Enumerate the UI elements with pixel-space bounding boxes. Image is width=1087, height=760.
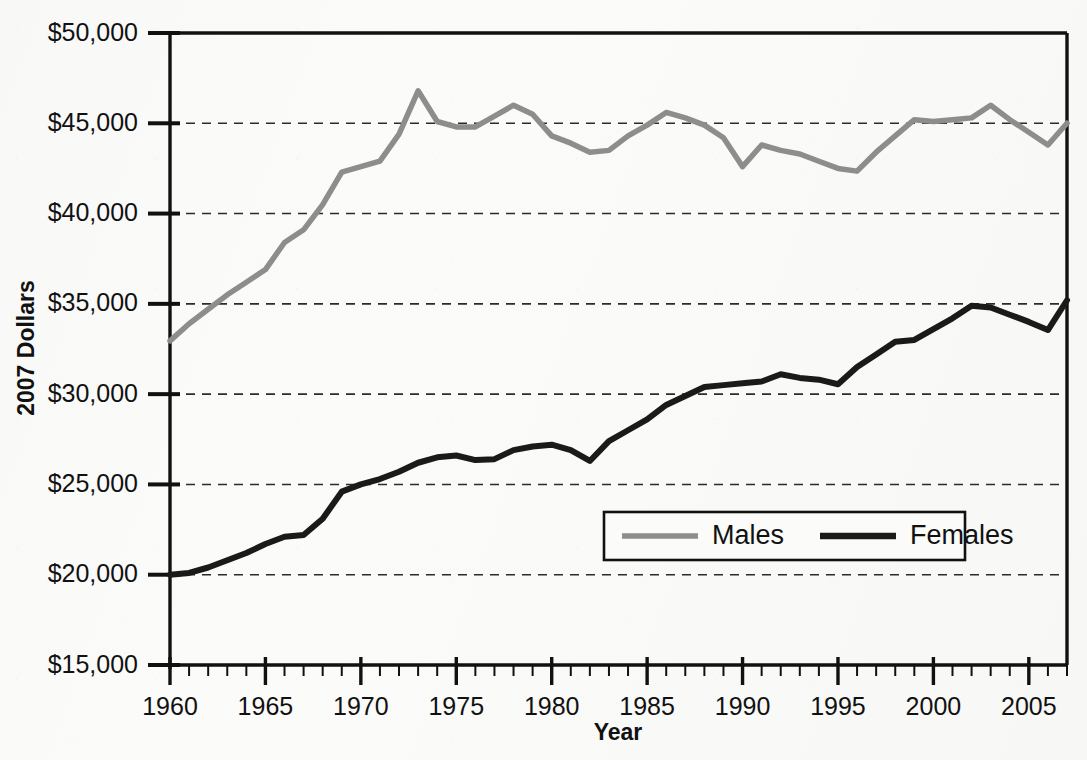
y-axis-tick-label: $25,000 — [48, 469, 138, 497]
x-axis-tick-label: 1965 — [238, 692, 294, 720]
x-axis-major-ticks-group — [170, 657, 1029, 685]
data-series-group — [170, 91, 1067, 575]
legend-label-males: Males — [712, 520, 784, 550]
x-axis-title: Year — [594, 719, 643, 745]
x-axis-tick-label: 1975 — [428, 692, 484, 720]
x-axis-tick-label: 2005 — [1001, 692, 1057, 720]
y-axis-tick-label: $40,000 — [48, 198, 138, 226]
line-chart-plot: $50,000$45,000$40,000$35,000$30,000$25,0… — [0, 0, 1087, 760]
y-axis-tick-label: $35,000 — [48, 288, 138, 316]
y-axis-tick-label: $50,000 — [48, 18, 138, 46]
x-axis-tick-label: 1980 — [524, 692, 580, 720]
y-axis-ticks-group — [148, 33, 180, 665]
y-axis-title: 2007 Dollars — [13, 280, 39, 416]
y-axis-tick-label: $45,000 — [48, 108, 138, 136]
x-axis-tick-label: 1960 — [142, 692, 198, 720]
y-axis-tick-labels-group: $50,000$45,000$40,000$35,000$30,000$25,0… — [48, 18, 138, 678]
chart-legend: MalesFemales — [604, 512, 1014, 560]
x-axis-tick-label: 1990 — [715, 692, 771, 720]
legend-label-females: Females — [910, 520, 1014, 550]
y-axis-tick-label: $20,000 — [48, 559, 138, 587]
x-axis-tick-label: 1995 — [810, 692, 866, 720]
x-axis-tick-labels-group: 1960196519701975198019851990199520002005 — [142, 692, 1056, 720]
plot-frame — [170, 33, 1067, 669]
x-axis-tick-label: 1985 — [619, 692, 675, 720]
x-axis-tick-label: 2000 — [906, 692, 962, 720]
y-axis-tick-label: $15,000 — [48, 650, 138, 678]
y-axis-tick-label: $30,000 — [48, 379, 138, 407]
gridlines-group — [170, 123, 1067, 665]
x-axis-tick-label: 1970 — [333, 692, 389, 720]
chart-figure: $50,000$45,000$40,000$35,000$30,000$25,0… — [0, 0, 1087, 760]
